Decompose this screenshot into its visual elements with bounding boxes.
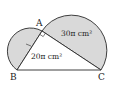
label-small-area: 20π cm² [31,52,62,61]
label-point-b: B [10,72,17,82]
label-large-area: 30π cm² [61,29,92,38]
label-point-c: C [98,72,105,82]
geometry-diagram: A B C 30π cm² 20π cm² [0,0,114,91]
label-point-a: A [35,18,43,28]
